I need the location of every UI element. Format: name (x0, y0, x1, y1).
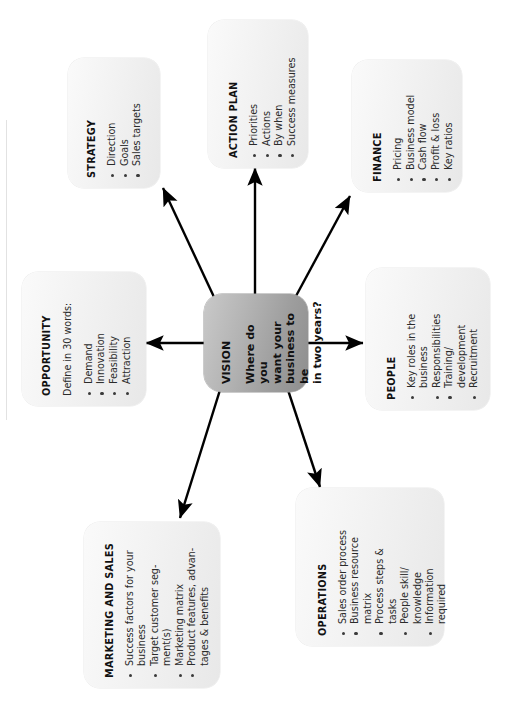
bullet-item: Attraction (121, 333, 134, 396)
node-action-plan-content: ACTION PLAN Priorities Actions By when S… (228, 28, 299, 158)
bullet-item: Sales order process (337, 530, 349, 636)
bullet-item: Target customer seg- ment(s) (149, 548, 174, 678)
node-strategy-content: STRATEGY Direction Goals Sales targets (86, 66, 144, 178)
node-vision-question: Where do you want your business to be in… (244, 300, 324, 384)
bullet-item: People skill/ knowledge (399, 530, 424, 636)
node-finance-title: FINANCE (372, 132, 385, 182)
scan-artifact-line (6, 120, 7, 420)
diagram-canvas: STRATEGY Direction Goals Sales targets A… (0, 0, 512, 708)
node-action-plan-bullets: Priorities Actions By when Success measu… (248, 57, 299, 158)
arrow-vision-marketing (180, 390, 220, 518)
node-vision-content: VISION Where do you want your business t… (220, 300, 324, 384)
bullet-item: Innovation (95, 333, 108, 396)
bullet-item: Key roles in the business (406, 314, 431, 400)
bullet-item: Process steps & tasks (374, 530, 399, 636)
arrow-vision-finance (296, 196, 350, 296)
bullet-item: Product features, advan- tages & benefit… (186, 548, 211, 678)
node-people[interactable]: PEOPLE Key roles in the business Respons… (366, 268, 490, 410)
bullet-item: Marketing matrix (174, 548, 186, 678)
bullet-item: Key ratios (443, 95, 456, 182)
node-opportunity-content: OPPORTUNITY Define in 30 words: Demand I… (41, 280, 133, 396)
node-action-plan-title: ACTION PLAN (228, 82, 241, 158)
node-finance[interactable]: FINANCE Pricing Business model Cash flow… (352, 60, 462, 192)
bullet-item: Information required (424, 530, 449, 636)
node-marketing-and-sales[interactable]: MARKETING AND SALES Success factors for … (84, 522, 220, 688)
bullet-item: Success factors for your business (124, 548, 149, 678)
bullet-item: Priorities (248, 57, 261, 158)
bullet-item: Feasibility (108, 333, 121, 396)
bullet-item: Actions (261, 57, 274, 158)
node-people-title: PEOPLE (386, 356, 399, 400)
bullet-item: By when (273, 57, 286, 158)
bullet-item: Business model (405, 95, 418, 182)
bullet-item: Cash flow (417, 95, 430, 182)
node-people-bullets: Key roles in the business Responsibiliti… (406, 314, 481, 400)
bullet-item: Direction (106, 103, 119, 178)
bullet-item: Success measures (286, 57, 299, 158)
node-marketing-and-sales-content: MARKETING AND SALES Success factors for … (104, 528, 211, 678)
node-vision-center[interactable]: VISION Where do you want your business t… (204, 294, 308, 392)
bullet-item: Sales targets (131, 103, 144, 178)
node-opportunity-bullets: Demand Innovation Feasibility Attraction (83, 333, 134, 396)
node-marketing-and-sales-title: MARKETING AND SALES (104, 543, 117, 678)
node-finance-bullets: Pricing Business model Cash flow Profit … (392, 95, 455, 182)
node-strategy[interactable]: STRATEGY Direction Goals Sales targets (68, 58, 160, 188)
node-vision-title: VISION (220, 341, 233, 384)
node-people-content: PEOPLE Key roles in the business Respons… (386, 276, 481, 400)
arrow-vision-operations (288, 390, 320, 487)
node-strategy-title: STRATEGY (86, 120, 99, 178)
arrow-vision-strategy (163, 188, 214, 297)
node-operations-title: OPERATIONS (317, 564, 330, 636)
node-finance-content: FINANCE Pricing Business model Cash flow… (372, 68, 455, 182)
bullet-item: Demand (83, 333, 96, 396)
bullet-item: Training/ development (443, 314, 468, 400)
bullet-item: Goals (119, 103, 132, 178)
bullet-item: Pricing (392, 95, 405, 182)
bullet-item: Responsibilities (431, 314, 443, 400)
node-operations-bullets: Sales order process Business resource ma… (337, 530, 449, 636)
node-strategy-bullets: Direction Goals Sales targets (106, 103, 144, 178)
node-operations[interactable]: OPERATIONS Sales order process Business … (296, 488, 444, 646)
node-opportunity[interactable]: OPPORTUNITY Define in 30 words: Demand I… (22, 272, 146, 406)
node-action-plan[interactable]: ACTION PLAN Priorities Actions By when S… (208, 20, 308, 168)
bullet-item: Business resource matrix (349, 530, 374, 636)
bullet-item: Recruitment (468, 314, 480, 400)
node-marketing-and-sales-bullets: Success factors for your business Target… (124, 548, 211, 678)
node-opportunity-title: OPPORTUNITY (41, 315, 54, 396)
node-opportunity-subtitle: Define in 30 words: (62, 303, 75, 396)
node-operations-content: OPERATIONS Sales order process Business … (317, 494, 449, 636)
bullet-item: Profit & loss (430, 95, 443, 182)
